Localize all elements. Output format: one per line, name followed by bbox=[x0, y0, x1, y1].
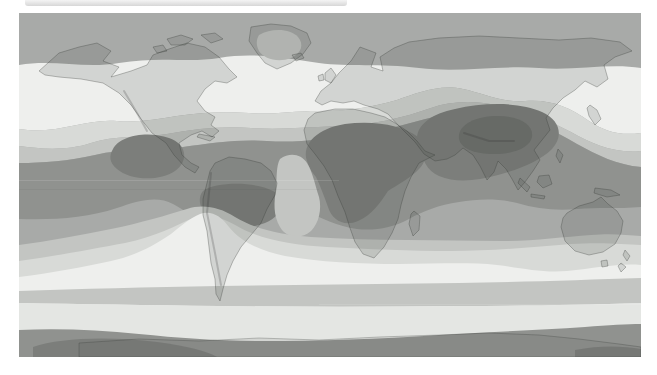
window-top-strip bbox=[25, 0, 347, 6]
dither-line bbox=[19, 180, 339, 181]
world-contour-map bbox=[19, 13, 641, 357]
dither-line bbox=[319, 304, 641, 305]
map-svg bbox=[19, 13, 641, 357]
land-tasmania bbox=[601, 260, 608, 267]
screenshot-page bbox=[0, 0, 657, 375]
